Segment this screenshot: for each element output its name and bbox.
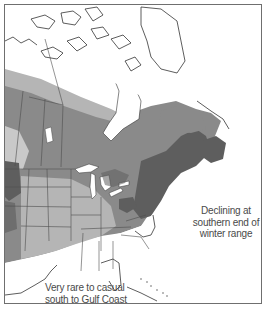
- range-newfoundland: [201, 136, 226, 163]
- annotation-very-rare: Very rare to casual south to Gulf Coast: [45, 282, 131, 304]
- annotation-line: Very rare to casual: [45, 282, 131, 294]
- annotation-line: south to Gulf Coast: [45, 294, 131, 305]
- range-map: [5, 5, 261, 303]
- range-map-frame: Declining at southern end of winter rang…: [4, 4, 262, 304]
- annotation-declining: Declining at southern end of winter rang…: [186, 205, 262, 240]
- annotation-line: southern end of: [186, 217, 262, 229]
- annotation-line: winter range: [186, 228, 262, 240]
- annotation-line: Declining at: [186, 205, 262, 217]
